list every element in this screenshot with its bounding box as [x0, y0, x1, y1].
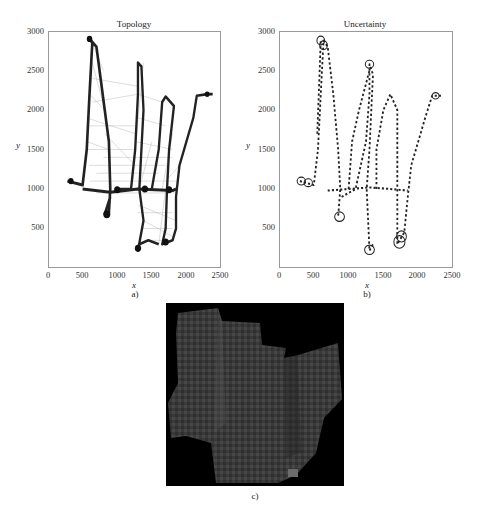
panel-a-ytick-1000: 1000 [14, 183, 44, 193]
panel-c-caption: c) [240, 491, 270, 501]
panel-b-ylabel: y [246, 140, 250, 150]
panel-b-xtick-1000: 1000 [333, 270, 363, 280]
panel-a-ytick-500: 500 [14, 222, 44, 232]
panel-a-xtick-2000: 2000 [171, 270, 201, 280]
panel-a-xtick-0: 0 [33, 270, 63, 280]
panel-b-xtick-0: 0 [264, 270, 294, 280]
panel-b-ytick-1000: 1000 [245, 183, 275, 193]
panel-b-caption: b) [352, 289, 382, 299]
panel-a-xtick-2500: 2500 [205, 270, 235, 280]
panel-a-ylabel: y [16, 140, 20, 150]
panel-a-ytick-2500: 2500 [14, 65, 44, 75]
panel-c-mosaic-image [166, 303, 344, 486]
panel-b-xtick-2500: 2500 [437, 270, 467, 280]
panel-b-uncertainty-plot [279, 31, 453, 268]
panel-b-title: Uncertainty [279, 19, 451, 29]
panel-b-xtick-2000: 2000 [402, 270, 432, 280]
panel-a-ytick-2000: 2000 [14, 104, 44, 114]
panel-b-xtick-1500: 1500 [368, 270, 398, 280]
panel-a-xtick-1000: 1000 [102, 270, 132, 280]
panel-b-ytick-2500: 2500 [245, 65, 275, 75]
panel-b-ytick-500: 500 [245, 222, 275, 232]
panel-b-ytick-2000: 2000 [245, 104, 275, 114]
panel-a-topology-plot [48, 31, 221, 268]
panel-a-xtick-1500: 1500 [136, 270, 166, 280]
panel-b-xtick-500: 500 [298, 270, 328, 280]
panel-b-ytick-3000: 3000 [245, 26, 275, 36]
panel-a-xtick-500: 500 [67, 270, 97, 280]
panel-a-title: Topology [48, 19, 220, 29]
panel-a-caption: a) [120, 289, 150, 299]
panel-a-ytick-3000: 3000 [14, 26, 44, 36]
